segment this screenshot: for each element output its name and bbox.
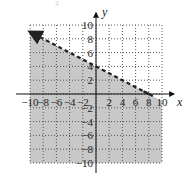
y-tick-label: −8 [81,143,93,155]
x-tick-label: −4 [64,96,76,108]
x-axis-label: x [176,95,183,109]
x-tick-label: −6 [51,96,63,108]
y-axis-label: y [101,5,108,19]
x-tick-label: 10 [157,96,169,108]
y-tick-label: 4 [88,60,94,72]
inequality-graph: −10−8−6−4−2246810108642−2−4−6−8−10xy2 [0,0,183,175]
y-tick-label: 8 [88,33,94,45]
y-tick-label: −10 [76,157,94,169]
x-tick-label: 8 [146,96,152,108]
y-tick-label: −4 [81,116,93,128]
y-tick-label: 6 [88,47,94,59]
y-tick-label: 10 [82,19,94,31]
x-tick-label: 4 [120,96,126,108]
top-mark: 2 [55,0,59,7]
y-tick-label: −6 [81,129,93,141]
y-tick-label: 2 [88,74,94,86]
x-tick-label: 2 [106,96,112,108]
x-tick-label: −8 [37,96,49,108]
x-tick-label: 6 [133,96,139,108]
y-tick-label: −2 [81,102,93,114]
